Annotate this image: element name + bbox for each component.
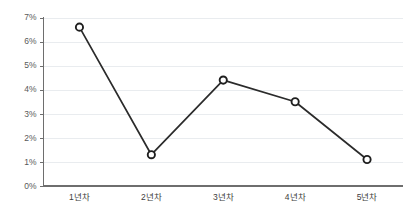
y-axis-tick-label: 1% [24,157,37,167]
x-axis-tick-label: 3년차 [213,192,234,202]
x-axis-tick-labels: 1년차2년차3년차4년차5년차 [69,192,377,202]
y-axis-tick-label: 5% [24,60,37,70]
data-point-marker[interactable] [292,98,299,105]
x-axis-tick-label: 1년차 [69,192,90,202]
data-point-marker[interactable] [148,151,155,158]
line-chart: 0%1%2%3%4%5%6%7% 1년차2년차3년차4년차5년차 [0,0,417,216]
y-axis-tick-labels: 0%1%2%3%4%5%6%7% [24,12,37,191]
y-axis-tick-label: 0% [24,181,37,191]
x-axis-tick-label: 4년차 [285,192,306,202]
gridlines [44,19,404,163]
y-axis-tick-label: 2% [24,133,37,143]
x-axis-tick-label: 2년차 [141,192,162,202]
chart-canvas: 0%1%2%3%4%5%6%7% 1년차2년차3년차4년차5년차 [0,0,417,216]
data-point-markers [76,24,371,164]
y-axis-tick-label: 6% [24,36,37,46]
y-axis-tick-label: 4% [24,84,37,94]
x-axis-tick-label: 5년차 [357,192,378,202]
data-point-marker[interactable] [220,76,227,83]
y-axis-tick-label: 3% [24,109,37,119]
data-point-marker[interactable] [363,156,370,163]
series-line-path [79,27,367,159]
data-point-marker[interactable] [76,24,83,31]
y-axis-tick-label: 7% [24,12,37,22]
